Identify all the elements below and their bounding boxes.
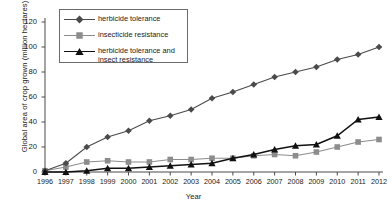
data-point [126,159,132,165]
y-tick-label: 100 [11,42,37,51]
data-point [334,144,340,150]
legend-item-herbicide-and-insect: herbicide tolerance and insect resistanc… [64,46,187,65]
data-point [125,127,132,134]
data-point [188,106,195,113]
series-square [42,137,382,174]
data-point [167,112,174,119]
square-marker-icon [64,30,95,41]
diamond-marker-icon [64,14,95,25]
x-axis-title: Year [0,192,387,201]
data-point [314,149,320,155]
data-point [84,159,90,165]
y-tick-label: 80 [11,67,37,76]
y-tick-label: 40 [11,117,37,126]
x-tick-label: 2012 [366,177,392,186]
data-point [250,81,257,88]
data-point [292,69,299,76]
data-point [146,117,153,124]
data-point [209,95,216,102]
legend-label: herbicide tolerance [95,14,160,23]
legend-item-insecticide-resistance: insecticide resistance [64,30,168,41]
triangle-marker-icon [64,46,95,57]
data-point [313,64,320,71]
data-point [105,158,111,164]
data-point [355,51,362,58]
y-tick-label: 120 [11,17,37,26]
data-point [104,134,111,141]
data-point [376,137,382,143]
y-tick-label: 0 [11,167,37,176]
legend-item-herbicide-tolerance: herbicide tolerance [64,14,160,25]
data-point [167,157,173,163]
data-point [355,139,361,145]
data-point [376,44,383,51]
y-tick-label: 20 [11,142,37,151]
y-tick-label: 60 [11,92,37,101]
data-point [272,152,278,158]
data-point [293,153,299,159]
data-point [230,89,237,96]
chart-legend: herbicide tolerance insecticide resistan… [59,9,188,63]
data-point [334,56,341,63]
legend-label: insecticide resistance [95,30,168,39]
data-point [271,74,278,81]
legend-label: herbicide tolerance and insect resistanc… [95,46,187,65]
